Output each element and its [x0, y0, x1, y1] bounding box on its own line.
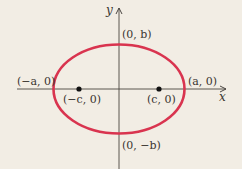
right-focus-point [156, 86, 161, 91]
ellipse-diagram: y x (0, b) (0, −b) (−a, 0) (a, 0) (−c, 0… [0, 0, 242, 169]
diagram-svg: y x (0, b) (0, −b) (−a, 0) (a, 0) (−c, 0… [0, 0, 242, 169]
top-vertex-label: (0, b) [122, 28, 152, 41]
right-focus-label: (c, 0) [147, 93, 176, 106]
y-axis-label: y [105, 3, 113, 17]
left-vertex-label: (−a, 0) [17, 75, 55, 88]
x-axis-label: x [219, 90, 226, 104]
bottom-vertex-label: (0, −b) [122, 139, 161, 152]
left-focus-point [76, 86, 81, 91]
right-vertex-label: (a, 0) [188, 75, 217, 88]
left-focus-label: (−c, 0) [63, 93, 101, 106]
